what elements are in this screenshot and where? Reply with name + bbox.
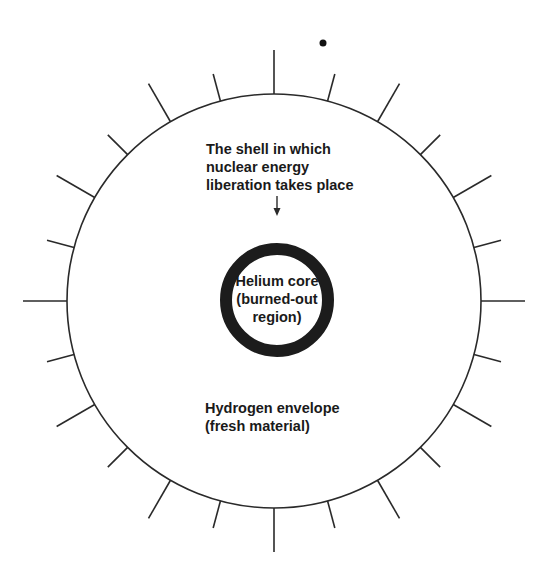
shell-arrow-head-icon bbox=[274, 208, 281, 216]
radiation-tick bbox=[328, 501, 335, 528]
radiation-tick bbox=[420, 447, 440, 467]
radiation-tick bbox=[474, 240, 501, 247]
radiation-tick bbox=[328, 74, 335, 101]
radiation-tick bbox=[420, 135, 440, 155]
radiation-tick bbox=[474, 355, 501, 362]
envelope-label: Hydrogen envelope (fresh material) bbox=[205, 399, 340, 435]
radiation-tick bbox=[213, 74, 220, 101]
radiation-tick bbox=[453, 405, 491, 427]
radiation-tick bbox=[149, 84, 171, 122]
core-label: Helium core (burned-out region) bbox=[218, 272, 336, 326]
radiation-tick bbox=[47, 355, 74, 362]
radiation-tick bbox=[213, 501, 220, 528]
radiation-tick bbox=[378, 84, 400, 122]
radiation-tick bbox=[57, 405, 95, 427]
radiation-tick bbox=[108, 447, 128, 467]
radiation-tick bbox=[149, 480, 171, 518]
shell-label: The shell in which nuclear energy libera… bbox=[206, 140, 353, 194]
radiation-tick bbox=[47, 240, 74, 247]
radiation-tick bbox=[57, 176, 95, 198]
radiation-tick bbox=[108, 135, 128, 155]
radiation-tick bbox=[378, 480, 400, 518]
stray-dot bbox=[320, 40, 327, 47]
radiation-tick bbox=[453, 176, 491, 198]
